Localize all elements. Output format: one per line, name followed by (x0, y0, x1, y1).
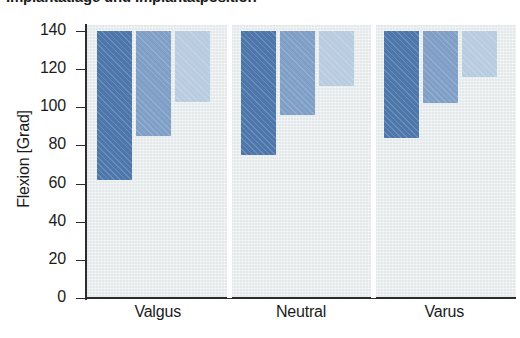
y-tick-label: 40 (4, 212, 66, 230)
y-tick-mark (76, 69, 85, 70)
bar-neutral-series-2 (280, 31, 315, 115)
y-tick-mark (76, 31, 85, 32)
y-tick-mark (76, 184, 85, 185)
bar-varus-series-3 (462, 31, 497, 77)
y-tick-mark (76, 107, 85, 108)
bar-valgus-series-3 (175, 31, 210, 102)
y-tick-mark (76, 298, 85, 299)
y-tick-label: 80 (4, 135, 66, 153)
y-tick-label: 140 (4, 21, 66, 39)
y-tick-label: 120 (4, 59, 66, 77)
y-tick-mark (76, 222, 85, 223)
bar-neutral-series-3 (319, 31, 354, 86)
bar-neutral-series-1 (241, 31, 276, 155)
y-tick-mark (76, 145, 85, 146)
bar-valgus-series-1 (97, 31, 132, 180)
bar-valgus-series-2 (136, 31, 171, 136)
y-tick-label: 0 (4, 288, 66, 306)
x-axis-line (85, 297, 516, 299)
y-tick-mark (76, 260, 85, 261)
y-tick-label: 100 (4, 97, 66, 115)
y-tick-label: 60 (4, 174, 66, 192)
x-category-label-valgus: Valgus (86, 303, 229, 321)
panel-separator (371, 25, 376, 298)
chart-title: Implantatlage und Implantatposition (6, 0, 336, 5)
y-tick-label: 20 (4, 250, 66, 268)
bar-varus-series-1 (384, 31, 419, 138)
bar-varus-series-2 (423, 31, 458, 103)
x-category-label-neutral: Neutral (229, 303, 372, 321)
panel-separator (227, 25, 232, 298)
x-category-label-varus: Varus (373, 303, 516, 321)
y-axis-line (85, 24, 87, 300)
